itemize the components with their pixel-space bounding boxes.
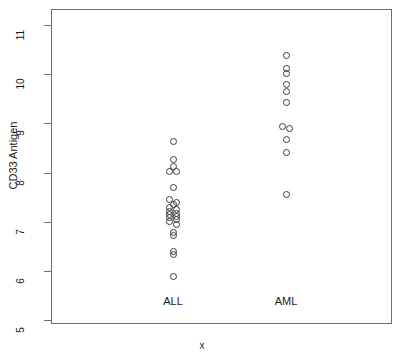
y-axis-tick-mark	[44, 173, 51, 174]
plot-area	[51, 9, 392, 324]
data-point	[283, 191, 290, 198]
x-group-label-aml: AML	[256, 296, 316, 307]
y-axis-tick-label: 7	[16, 222, 26, 242]
data-point	[283, 99, 290, 106]
data-point	[170, 273, 177, 280]
data-point	[170, 232, 177, 239]
y-axis-tick-mark	[44, 123, 51, 124]
y-axis-tick-label: 5	[16, 320, 26, 340]
y-axis-tick-mark	[44, 25, 51, 26]
data-point	[283, 136, 290, 143]
y-axis-tick-label: 6	[16, 271, 26, 291]
data-point	[170, 251, 177, 258]
data-point	[283, 70, 290, 77]
y-axis-tick-label: 10	[16, 74, 26, 94]
data-point	[283, 88, 290, 95]
data-point	[170, 184, 177, 191]
x-axis-title: x	[0, 341, 404, 351]
y-axis-tick-mark	[44, 74, 51, 75]
data-point	[173, 221, 180, 228]
data-point	[283, 149, 290, 156]
y-axis-tick-mark	[44, 222, 51, 223]
data-point	[173, 168, 180, 175]
y-axis-tick-mark	[44, 271, 51, 272]
y-axis-title: CD33 Antigen	[8, 96, 19, 216]
data-point	[286, 125, 293, 132]
y-axis-tick-label: 11	[16, 25, 26, 45]
stripchart-figure: 567891011 CD33 Antigen x ALLAML	[0, 0, 404, 355]
data-point	[170, 138, 177, 145]
y-axis-tick-mark	[44, 320, 51, 321]
x-group-label-all: ALL	[143, 296, 203, 307]
